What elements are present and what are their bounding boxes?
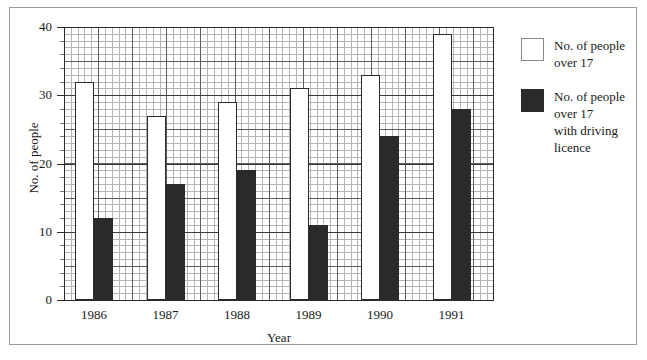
chart-legend: No. of people over 17No. of people over … <box>521 38 633 174</box>
major-gridline <box>64 95 493 96</box>
y-axis-minor-tick <box>60 259 64 260</box>
y-axis-tick-label-wrap: 10 <box>8 225 52 238</box>
y-axis-minor-tick <box>60 245 64 246</box>
bar-licence-1987 <box>166 184 185 300</box>
y-axis-tick <box>57 300 64 301</box>
bar-over17-1987 <box>147 116 166 300</box>
x-axis-label-1987: 1987 <box>131 308 201 322</box>
chart-figure: 010203040 198619871988198919901991 Year … <box>0 0 647 360</box>
x-axis-label-1988: 1988 <box>202 308 272 322</box>
y-axis-minor-tick <box>60 286 64 287</box>
y-axis-minor-tick <box>60 218 64 219</box>
bar-over17-1988 <box>218 102 237 300</box>
x-axis-line <box>64 300 494 301</box>
y-axis-tick <box>57 27 64 28</box>
y-axis-tick <box>57 232 64 233</box>
y-axis-minor-tick <box>60 150 64 151</box>
y-axis-minor-tick <box>60 109 64 110</box>
bar-over17-1989 <box>290 88 309 300</box>
plot-area <box>64 27 493 300</box>
y-axis-minor-tick <box>60 177 64 178</box>
y-axis-minor-tick <box>60 41 64 42</box>
y-axis-tick-label: 40 <box>12 20 52 33</box>
y-axis-tick <box>57 164 64 165</box>
plot-right-edge <box>493 27 494 301</box>
x-axis-label-1990: 1990 <box>345 308 415 322</box>
y-axis-tick-label-wrap: 40 <box>8 20 52 33</box>
major-gridline <box>64 232 493 233</box>
y-axis-line <box>64 27 65 301</box>
y-axis-minor-tick <box>60 82 64 83</box>
y-axis-tick-label: 0 <box>12 293 52 306</box>
y-axis-minor-tick <box>60 136 64 137</box>
legend-label: No. of people over 17 <box>554 37 625 71</box>
y-axis-tick-label-wrap: 0 <box>8 293 52 306</box>
y-axis-tick <box>57 95 64 96</box>
major-gridline <box>64 164 493 165</box>
y-axis-minor-tick <box>60 204 64 205</box>
legend-swatch-light <box>521 38 544 61</box>
bar-licence-1990 <box>380 136 399 300</box>
y-axis-minor-tick <box>60 68 64 69</box>
bar-licence-1991 <box>452 109 471 300</box>
y-axis-minor-tick <box>60 123 64 124</box>
bar-over17-1991 <box>433 34 452 300</box>
legend-label: No. of people over 17 with driving licen… <box>554 88 625 156</box>
y-axis-title: No. of people <box>26 98 42 218</box>
plot-top-edge <box>64 27 494 28</box>
bar-licence-1986 <box>94 218 113 300</box>
bar-licence-1988 <box>237 170 256 300</box>
x-axis-label-1986: 1986 <box>59 308 129 322</box>
legend-item-2: No. of people over 17 with driving licen… <box>521 89 633 156</box>
x-axis-label-1989: 1989 <box>274 308 344 322</box>
bar-over17-1990 <box>361 75 380 300</box>
bar-licence-1989 <box>309 225 328 300</box>
y-axis-minor-tick <box>60 273 64 274</box>
y-axis-minor-tick <box>60 191 64 192</box>
bar-over17-1986 <box>75 82 94 300</box>
x-axis-title: Year <box>64 330 494 346</box>
y-axis-tick-label: 10 <box>12 225 52 238</box>
x-axis-label-1991: 1991 <box>417 308 487 322</box>
legend-item-1: No. of people over 17 <box>521 38 633 71</box>
legend-swatch-dark <box>521 89 544 112</box>
y-axis-minor-tick <box>60 54 64 55</box>
